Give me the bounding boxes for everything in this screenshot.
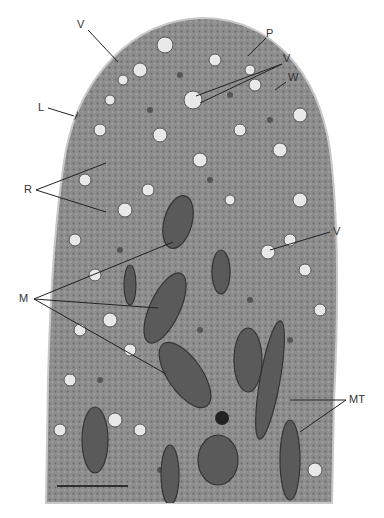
- micrograph-image: [0, 0, 384, 518]
- label-vesicle-top-right: V: [283, 53, 290, 64]
- label-plasma-membrane: P: [266, 28, 273, 39]
- label-microtubules: MT: [349, 394, 365, 405]
- lipid-body: [62, 102, 78, 122]
- label-cell-wall: W: [288, 72, 298, 83]
- label-vesicle-mid-right: V: [333, 226, 340, 237]
- micrograph-figure: V P V W L R V M MT: [0, 0, 384, 518]
- label-lipid: L: [38, 102, 44, 113]
- label-ribosomes: R: [24, 184, 32, 195]
- label-vesicle-top-left: V: [77, 19, 84, 30]
- label-mitochondria: M: [19, 293, 28, 304]
